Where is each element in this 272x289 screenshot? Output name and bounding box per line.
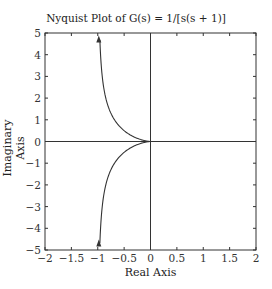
y-tick-label: 2 bbox=[34, 92, 41, 104]
x-tick-label: 1.5 bbox=[221, 252, 238, 264]
direction-arrow-icon bbox=[96, 36, 101, 43]
y-tick-label: −5 bbox=[26, 244, 41, 256]
x-tick-label: −0.5 bbox=[111, 252, 137, 264]
x-tick-label: −1 bbox=[90, 252, 105, 264]
y-tick-label: −2 bbox=[26, 179, 41, 191]
y-tick-label: 4 bbox=[34, 49, 41, 61]
nyquist-curve-positive-omega bbox=[100, 142, 151, 244]
y-tick-label: −4 bbox=[26, 222, 42, 234]
x-tick-label: 0 bbox=[147, 252, 154, 264]
x-tick-label: 1 bbox=[200, 252, 207, 264]
x-tick-label: 2 bbox=[253, 252, 260, 264]
y-axis-label: Imaginary Axis bbox=[1, 108, 27, 188]
y-tick-label: 0 bbox=[34, 136, 41, 148]
y-tick-label: −3 bbox=[26, 201, 41, 213]
y-tick-label: 5 bbox=[34, 27, 41, 39]
y-tick-label: 3 bbox=[34, 70, 41, 82]
x-tick-label: −1.5 bbox=[59, 252, 85, 264]
nyquist-chart: −2−1.5−1−0.500.511.52−5−4−3−2−1012345 bbox=[0, 0, 272, 289]
y-tick-label: −1 bbox=[26, 157, 41, 169]
y-tick-label: 1 bbox=[34, 114, 41, 126]
x-tick-label: 0.5 bbox=[169, 252, 186, 264]
direction-arrow-icon bbox=[96, 239, 101, 246]
nyquist-curve-negative-omega bbox=[100, 40, 151, 142]
x-axis-label: Real Axis bbox=[45, 266, 256, 279]
